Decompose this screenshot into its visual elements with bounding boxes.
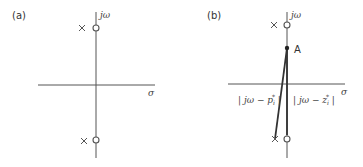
panel-b-label: (b) — [207, 10, 221, 21]
point-a-marker — [285, 46, 289, 50]
zero-marker-lower — [284, 136, 290, 142]
imag-axis-label: jω — [98, 10, 111, 20]
pole-marker-upper — [271, 22, 277, 28]
zero-marker-lower — [93, 137, 99, 143]
pole-distance-vector — [275, 48, 287, 139]
panel-a: (a) jω σ — [12, 10, 155, 158]
zero-distance-label: | jω − zi* | — [293, 93, 335, 106]
pole-marker-upper — [79, 25, 85, 31]
real-axis-label: σ — [341, 87, 348, 97]
zero-marker-upper — [93, 25, 99, 31]
point-a-label: A — [294, 44, 301, 55]
pole-zero-diagram: (a) jω σ (b) jω σ A — [0, 0, 363, 167]
panel-b: (b) jω σ A | jω − pi* | | jω − zi* | — [207, 10, 348, 158]
zero-marker-upper — [284, 22, 290, 28]
pole-marker-lower — [81, 138, 87, 144]
panel-a-label: (a) — [12, 10, 26, 21]
imag-axis-label: jω — [289, 10, 302, 20]
pole-distance-label: | jω − pi* | — [238, 93, 281, 106]
real-axis-label: σ — [148, 88, 155, 98]
